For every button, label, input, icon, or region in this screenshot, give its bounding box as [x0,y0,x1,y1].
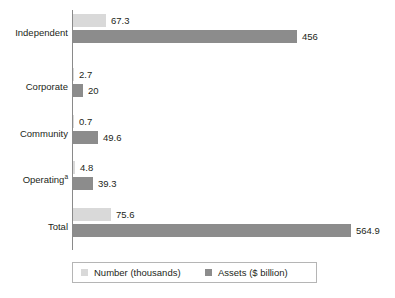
category-label-superscript: a [64,173,68,180]
bar-assets [73,224,351,237]
category-label-text: Community [20,128,68,139]
bar-chart: Independent 67.3 456 Corporate 2.7 20 [0,0,395,298]
category-label-text: Corporate [26,81,68,92]
category-group: Community 0.7 49.6 [0,111,395,157]
bar-value-number: 2.7 [74,68,92,81]
bar-number [73,208,111,221]
bar-assets [73,131,98,144]
category-group: Total 75.6 564.9 [0,204,395,250]
category-label: Corporate [0,81,68,92]
category-label: Operatinga [0,174,68,185]
category-label-text: Operating [23,174,65,185]
category-label: Community [0,128,68,139]
bar-value-assets: 49.6 [98,131,122,144]
bar-number [73,14,106,27]
chart-legend: Number (thousands) Assets ($ billion) [72,262,317,283]
bar-value-assets: 39.3 [93,177,117,190]
plot-area: Independent 67.3 456 Corporate 2.7 20 [0,0,395,258]
legend-label: Assets ($ billion) [218,267,288,278]
bar-value-assets: 456 [297,30,318,43]
category-label-text: Total [48,221,68,232]
bar-value-number: 75.6 [111,208,135,221]
bar-value-assets: 20 [83,84,99,97]
category-label-text: Independent [15,27,68,38]
legend-swatch-icon [205,269,212,276]
bar-value-number: 67.3 [106,14,130,27]
category-group: Operatinga 4.8 39.3 [0,157,395,203]
bar-value-number: 0.7 [74,115,92,128]
legend-entry-number[interactable]: Number (thousands) [81,263,181,282]
bar-assets [73,177,93,190]
category-group: Corporate 2.7 20 [0,64,395,110]
category-group: Independent 67.3 456 [0,10,395,56]
category-label: Total [0,221,68,232]
bar-assets [73,84,83,97]
bar-value-number: 4.8 [75,161,93,174]
category-label: Independent [0,27,68,38]
legend-entry-assets[interactable]: Assets ($ billion) [205,263,288,282]
legend-label: Number (thousands) [94,267,181,278]
bar-value-assets: 564.9 [351,224,380,237]
legend-swatch-icon [81,269,88,276]
bar-assets [73,30,297,43]
